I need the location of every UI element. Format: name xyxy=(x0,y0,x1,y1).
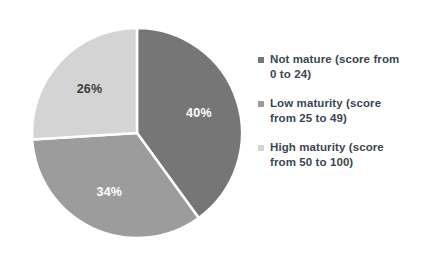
pie-chart: 40%34%26% Not mature (score from 0 to 24… xyxy=(0,0,432,263)
legend-label-line-2: from 50 to 100) xyxy=(270,155,384,170)
pie-data-label-high-maturity: 26% xyxy=(77,82,103,96)
pie-slice-group xyxy=(32,28,242,238)
legend-label-line-2: 0 to 24) xyxy=(270,67,399,82)
legend-label-high-maturity: High maturity (score from 50 to 100) xyxy=(270,140,384,170)
legend-item-not-mature[interactable]: Not mature (score from 0 to 24) xyxy=(258,52,432,82)
legend-label-not-mature: Not mature (score from 0 to 24) xyxy=(270,52,399,82)
pie-data-label-not-mature: 40% xyxy=(186,106,212,120)
pie-svg: 40%34%26% xyxy=(0,0,262,263)
legend-label-line-1: Not mature (score from xyxy=(270,52,399,67)
legend: Not mature (score from 0 to 24) Low matu… xyxy=(258,52,432,184)
legend-swatch-icon-low-maturity xyxy=(258,101,264,107)
legend-label-line-1: High maturity (score xyxy=(270,140,384,155)
legend-swatch-icon-not-mature xyxy=(258,57,264,63)
pie-data-label-low-maturity: 34% xyxy=(96,185,122,199)
legend-item-low-maturity[interactable]: Low maturity (score from 25 to 49) xyxy=(258,96,432,126)
legend-label-line-1: Low maturity (score xyxy=(270,96,381,111)
legend-label-line-2: from 25 to 49) xyxy=(270,111,381,126)
legend-swatch-icon-high-maturity xyxy=(258,145,264,151)
pie-plot-area: 40%34%26% xyxy=(0,0,262,263)
legend-label-low-maturity: Low maturity (score from 25 to 49) xyxy=(270,96,381,126)
legend-item-high-maturity[interactable]: High maturity (score from 50 to 100) xyxy=(258,140,432,170)
